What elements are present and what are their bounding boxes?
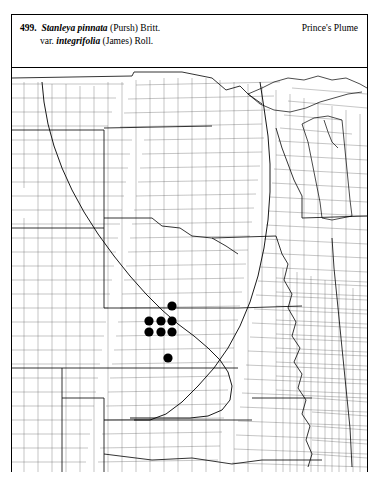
atlas-page: 499. Stanleya pinnata (Pursh) Britt. var… (0, 0, 378, 484)
great-lakes-outline (248, 76, 367, 220)
variety-epithet: integrifolia (56, 36, 100, 46)
taxon-name-block: 499. Stanleya pinnata (Pursh) Britt. var… (20, 22, 160, 47)
county-boundaries (12, 78, 367, 472)
occurrence-dot (167, 301, 176, 310)
distribution-plate: 499. Stanleya pinnata (Pursh) Britt. var… (11, 14, 368, 472)
occurrence-dot (156, 327, 165, 336)
occurrence-dot (144, 316, 153, 325)
occurrence-dot (167, 327, 176, 336)
species-authority: (Pursh) Britt. (110, 23, 160, 33)
occurrence-dot-layer (144, 301, 176, 362)
missouri-river (42, 82, 270, 420)
variety-prefix: var. (40, 36, 54, 46)
occurrence-dot (144, 327, 153, 336)
taxon-name-line-variety: var. integrifolia (James) Roll. (20, 35, 160, 48)
entry-number: 499. (20, 23, 37, 33)
occurrence-dot (163, 353, 172, 362)
plate-header: 499. Stanleya pinnata (Pursh) Britt. var… (12, 15, 367, 68)
common-name: Prince's Plume (302, 22, 358, 35)
scientific-name: Stanleya pinnata (41, 23, 107, 33)
occurrence-dot (167, 316, 176, 325)
taxon-name-line-primary: 499. Stanleya pinnata (Pursh) Britt. (20, 22, 160, 35)
variety-authority: (James) Roll. (103, 36, 154, 46)
occurrence-dot (156, 316, 165, 325)
map-canvas (12, 68, 367, 472)
distribution-map (12, 68, 367, 472)
